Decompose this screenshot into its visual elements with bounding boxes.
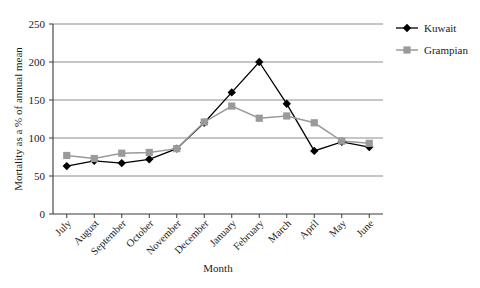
x-tick-label: June <box>354 217 376 239</box>
y-tick-label: 100 <box>29 132 46 144</box>
data-point-grampian <box>63 152 70 159</box>
data-point-kuwait <box>283 100 291 108</box>
y-axis-title: Mortality as a % of annual mean <box>12 47 24 191</box>
legend-label-grampian: Grampian <box>424 44 468 56</box>
data-point-grampian <box>256 115 263 122</box>
x-axis-title: Month <box>203 262 233 274</box>
chart-legend: KuwaitGrampian <box>396 22 468 56</box>
legend-marker-grampian <box>403 46 410 53</box>
legend-marker-kuwait <box>403 24 411 32</box>
x-tick-label: February <box>231 217 266 252</box>
data-point-kuwait <box>118 159 126 167</box>
series-line-grampian <box>67 106 370 158</box>
data-point-grampian <box>338 137 345 144</box>
data-point-kuwait <box>145 155 153 163</box>
x-axis-tick-labels: JulyAugustSeptemberOctoberNovemberDecemb… <box>53 217 376 257</box>
data-point-grampian <box>366 140 373 147</box>
legend-label-kuwait: Kuwait <box>424 22 456 34</box>
data-point-grampian <box>283 112 290 119</box>
y-tick-label: 0 <box>40 208 46 220</box>
data-point-grampian <box>118 150 125 157</box>
y-axis-tick-labels: 050100150200250 <box>29 18 46 220</box>
x-axis-tick-marks <box>67 214 370 218</box>
grid-lines <box>49 24 383 214</box>
data-point-grampian <box>146 149 153 156</box>
data-point-kuwait <box>310 147 318 155</box>
data-point-kuwait <box>63 162 71 170</box>
chart-figure: 050100150200250 JulyAugustSeptemberOctob… <box>0 0 480 288</box>
data-point-grampian <box>311 119 318 126</box>
x-tick-label: April <box>297 218 321 242</box>
x-tick-label: July <box>53 217 74 238</box>
x-tick-label: March <box>266 217 294 245</box>
data-point-grampian <box>173 145 180 152</box>
y-tick-label: 250 <box>29 18 46 30</box>
y-tick-label: 50 <box>34 170 46 182</box>
y-tick-label: 150 <box>29 94 46 106</box>
data-point-grampian <box>201 118 208 125</box>
data-point-grampian <box>228 102 235 109</box>
line-chart-canvas: 050100150200250 JulyAugustSeptemberOctob… <box>0 0 480 288</box>
data-point-grampian <box>91 155 98 162</box>
y-tick-label: 200 <box>29 56 46 68</box>
x-tick-label: May <box>327 217 349 239</box>
axis-lines <box>53 24 383 214</box>
data-series-layer <box>63 58 374 171</box>
